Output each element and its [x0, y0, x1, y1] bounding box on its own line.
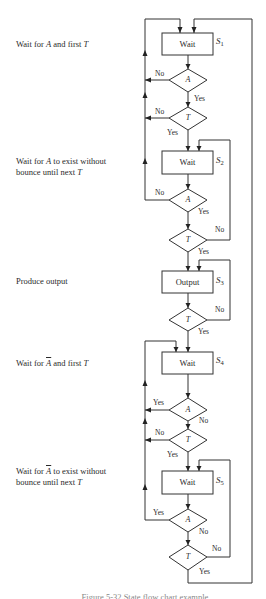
state-label-s4: Wait: [162, 358, 213, 368]
branch-no-d1t: No: [155, 107, 164, 116]
decision-var-d1t: T: [178, 113, 198, 122]
state-label-s3: Output: [162, 277, 213, 287]
branch-yes-d2t: Yes: [198, 247, 209, 256]
state-label-s2: Wait: [162, 157, 213, 167]
branch-yes-d5a: Yes: [153, 508, 164, 517]
decision-var-d2t: T: [178, 235, 198, 244]
state-name-s3: S3: [216, 275, 224, 286]
branch-yes-d1t: Yes: [167, 128, 178, 137]
branch-yes-d4t: Yes: [167, 450, 178, 459]
branch-yes-d3t: Yes: [198, 327, 209, 336]
state-label-s1: Wait: [162, 39, 213, 49]
decision-var-d5t: T: [178, 552, 198, 561]
decision-var-d3t: T: [178, 315, 198, 324]
branch-no-d2a: No: [155, 188, 164, 197]
branch-no-d2t: No: [215, 225, 224, 234]
state-name-s4: S4: [216, 355, 224, 366]
state-subscript: 3: [221, 279, 224, 286]
decision-var-d1a: A: [178, 75, 198, 84]
branch-no-d4a: No: [199, 416, 208, 425]
state-name-s1: S1: [216, 36, 224, 47]
branch-no-d1a: No: [155, 69, 164, 78]
decision-var-d2a: A: [178, 195, 198, 204]
state-name-s2: S2: [216, 155, 224, 166]
state-name-s5: S5: [216, 475, 224, 486]
decision-var-d5a: A: [178, 515, 198, 524]
branch-no-d5t: No: [212, 544, 221, 553]
branch-no-d4t: No: [155, 428, 164, 437]
branch-yes-d2a: Yes: [198, 207, 209, 216]
state-subscript: 1: [221, 40, 224, 47]
state-subscript: 2: [221, 159, 224, 166]
state-subscript: 5: [221, 479, 224, 486]
flowchart: [0, 0, 266, 599]
state-subscript: 4: [221, 359, 224, 366]
branch-no-d3t: No: [215, 305, 224, 314]
figure-caption: Figure 5-32 State flow chart example: [40, 591, 250, 599]
branch-yes-d5t: Yes: [199, 567, 210, 576]
branch-no-d5a: No: [199, 527, 208, 536]
decision-var-d4a: A: [178, 405, 198, 414]
branch-yes-d4a: Yes: [153, 398, 164, 407]
decision-var-d4t: T: [178, 435, 198, 444]
state-label-s5: Wait: [162, 477, 213, 487]
branch-yes-d1a: Yes: [194, 94, 205, 103]
